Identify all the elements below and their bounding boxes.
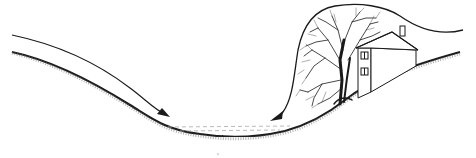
chimney [400, 26, 405, 36]
arrowhead-icon [157, 108, 170, 117]
cold-air-pool [168, 126, 290, 131]
cold-air-drainage-diagram [0, 0, 476, 158]
diagram-canvas [0, 0, 476, 158]
house [356, 26, 418, 98]
tree-trunk-2 [344, 58, 350, 102]
valley-floor [200, 131, 285, 137]
stray-dot [217, 153, 218, 154]
arrowhead-icon [270, 111, 283, 121]
house-front-wall [371, 48, 416, 92]
tree-trunk [340, 40, 344, 104]
left-airflow-arrow [12, 35, 170, 117]
